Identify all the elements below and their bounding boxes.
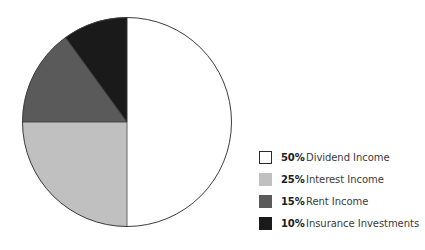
legend-item-rent-income[interactable]: 15% Rent Income	[259, 190, 425, 212]
legend-swatch-insurance-investments	[259, 217, 272, 230]
legend-swatch-rent-income	[259, 195, 272, 208]
legend-swatch-dividend-income	[259, 151, 272, 164]
legend-label-dividend-income: Dividend Income	[306, 152, 390, 163]
legend-percent-interest-income: 25%	[281, 174, 306, 185]
legend-label-insurance-investments: Insurance Investments	[306, 218, 419, 229]
legend-label-interest-income: Interest Income	[306, 174, 384, 185]
legend-percent-rent-income: 15%	[281, 196, 306, 207]
legend-percent-insurance-investments: 10%	[281, 218, 306, 229]
legend-swatch-interest-income	[259, 173, 272, 186]
pie-slice-interest-income[interactable]	[23, 122, 128, 227]
pie-chart-graphic	[22, 17, 232, 227]
legend-percent-dividend-income: 50%	[281, 152, 306, 163]
pie-slice-dividend-income[interactable]	[127, 18, 231, 227]
legend-label-rent-income: Rent Income	[306, 196, 368, 207]
legend-item-dividend-income[interactable]: 50% Dividend Income	[259, 146, 425, 168]
legend-item-interest-income[interactable]: 25% Interest Income	[259, 168, 425, 190]
pie-svg	[22, 17, 232, 227]
chart-legend: 50% Dividend Income 25% Interest Income …	[259, 146, 425, 234]
pie-slice-group	[23, 18, 232, 227]
legend-item-insurance-investments[interactable]: 10% Insurance Investments	[259, 212, 425, 234]
pie-chart-figure: 50% Dividend Income 25% Interest Income …	[0, 0, 425, 250]
